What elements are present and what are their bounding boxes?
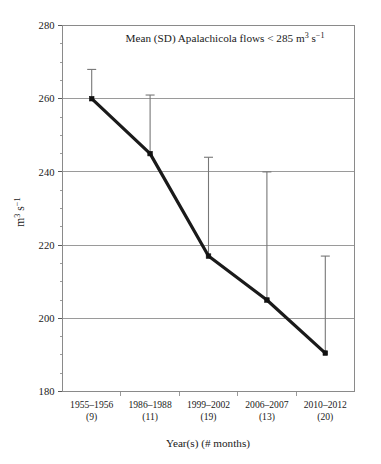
- y-tick-group: [58, 26, 63, 392]
- y-tick-label-180: 180: [39, 386, 55, 397]
- x-tick-label-4: 2010–2012(20): [304, 399, 347, 423]
- x-tick-label-months: (19): [201, 411, 217, 423]
- x-tick-label-years: 2010–2012: [304, 399, 347, 410]
- x-tick-label-months: (11): [142, 411, 158, 423]
- chart-title: Mean (SD) Apalachicola flows < 285 m3 s−…: [126, 31, 325, 45]
- x-tick-label-years: 1955–1956: [70, 399, 113, 410]
- data-point-2: [206, 254, 211, 259]
- x-tick-label-years: 1999–2002: [187, 399, 230, 410]
- x-tick-label-0: 1955–1956(9): [70, 399, 113, 423]
- y-tick-label-280: 280: [39, 20, 55, 31]
- x-tick-label-1: 1986–1988(11): [129, 399, 172, 423]
- x-tick-group: [121, 392, 296, 396]
- x-tick-label-months: (20): [317, 411, 333, 423]
- y-tick-label-240: 240: [39, 167, 55, 178]
- y-tick-label-260: 260: [39, 93, 55, 104]
- y-axis-label: m3 s−1: [13, 197, 26, 226]
- data-point-4: [323, 351, 328, 356]
- data-point-0: [89, 96, 94, 101]
- x-tick-label-months: (13): [259, 411, 275, 423]
- x-tick-label-2: 1999–2002(19): [187, 399, 230, 423]
- y-tick-label-220: 220: [39, 240, 55, 251]
- x-axis-label: Year(s) (# months): [166, 437, 250, 450]
- x-tick-label-years: 2006–2007: [245, 399, 288, 410]
- data-point-1: [148, 151, 153, 156]
- data-point-3: [265, 298, 270, 303]
- y-tick-label-200: 200: [39, 313, 55, 324]
- x-tick-label-3: 2006–2007(13): [245, 399, 288, 423]
- x-tick-label-group: 1955–1956(9)1986–1988(11)1999–2002(19)20…: [70, 399, 347, 423]
- x-tick-label-years: 1986–1988: [129, 399, 172, 410]
- x-tick-label-months: (9): [86, 411, 97, 423]
- flow-line-chart: Mean (SD) Apalachicola flows < 285 m3 s−…: [0, 0, 381, 464]
- figure-container: Mean (SD) Apalachicola flows < 285 m3 s−…: [0, 0, 381, 464]
- y-tick-label-group: 180200220240260280: [39, 20, 55, 397]
